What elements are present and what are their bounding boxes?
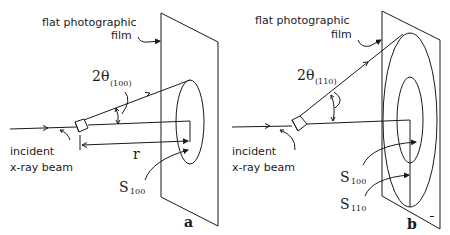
- film-label-a-line2: film: [111, 29, 132, 42]
- ring-label-b-s100-sub: 100: [351, 177, 366, 186]
- film-leader-b: [358, 40, 381, 46]
- angle-label-a: 2θ: [92, 68, 109, 84]
- crystal-b: [292, 116, 307, 131]
- beam-label-b-line1: incident: [232, 145, 277, 158]
- angle-label-b-sub: (110): [315, 77, 337, 86]
- incident-beam-a: [10, 127, 76, 129]
- beam-label-b-line2: x-ray beam: [232, 161, 295, 174]
- diffracted-beam-a: [84, 80, 190, 120]
- ring-label-b-s110-sub: 110: [351, 204, 366, 213]
- transmitted-beam-b: [307, 120, 410, 124]
- ring-leader-b-s100: [363, 142, 416, 165]
- transmitted-beam-a: [88, 121, 190, 125]
- crystal-a: [75, 119, 88, 132]
- diffracted-beam-b: [300, 34, 403, 116]
- angle-label-b: 2θ: [297, 67, 314, 83]
- film-leader-a: [138, 37, 160, 42]
- panel-label-a: a: [184, 214, 193, 230]
- panel-b: [232, 11, 440, 229]
- distance-label-r: r: [133, 146, 140, 162]
- angle-label-a-sub: (100): [110, 79, 132, 88]
- ring-label-a-s100-sub: 100: [130, 187, 145, 196]
- corner-mark-b: [430, 216, 434, 217]
- panel-a: [10, 13, 218, 226]
- ring-label-b-s110: S: [340, 196, 350, 212]
- film-label-b-line1: flat photographic: [255, 14, 350, 27]
- film-plate-a: [161, 13, 218, 226]
- beam-label-a-line1: incident: [10, 145, 55, 158]
- ring-label-b-s100: S: [340, 169, 350, 185]
- film-label-b-line2: film: [331, 28, 352, 41]
- ring-leader-b-s110: [365, 175, 409, 196]
- incident-beam-b: [232, 126, 292, 127]
- ring-label-a-s100: S: [119, 179, 129, 195]
- beam-label-a-line2: x-ray beam: [10, 161, 73, 174]
- xray-diffraction-diagram: flat photographic film 2θ (100) incident…: [0, 0, 450, 235]
- film-label-a-line1: flat photographic: [42, 16, 137, 29]
- panel-label-b: b: [407, 216, 417, 232]
